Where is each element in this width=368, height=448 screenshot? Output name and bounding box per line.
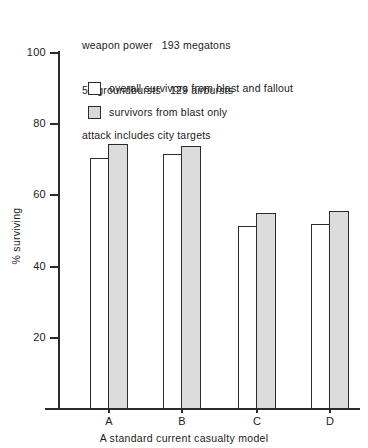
bar-D-overall <box>311 224 330 409</box>
bar-B-overall <box>163 154 182 409</box>
bar-C-overall <box>238 226 257 409</box>
bar-B-blast-only <box>181 146 201 409</box>
x-label-D: D <box>315 415 345 427</box>
bar-A-overall <box>90 158 109 409</box>
bar-D-blast-only <box>329 211 349 409</box>
x-label-A: A <box>94 415 124 427</box>
x-label-B: B <box>167 415 197 427</box>
x-label-C: C <box>242 415 272 427</box>
bar-C-blast-only <box>256 213 276 409</box>
chart-caption: A standard current casualty model <box>0 432 368 444</box>
plot-area <box>0 0 368 409</box>
chart-figure: weapon power193 megatons 50 groundbursts… <box>0 0 368 448</box>
bar-A-blast-only <box>108 144 128 409</box>
